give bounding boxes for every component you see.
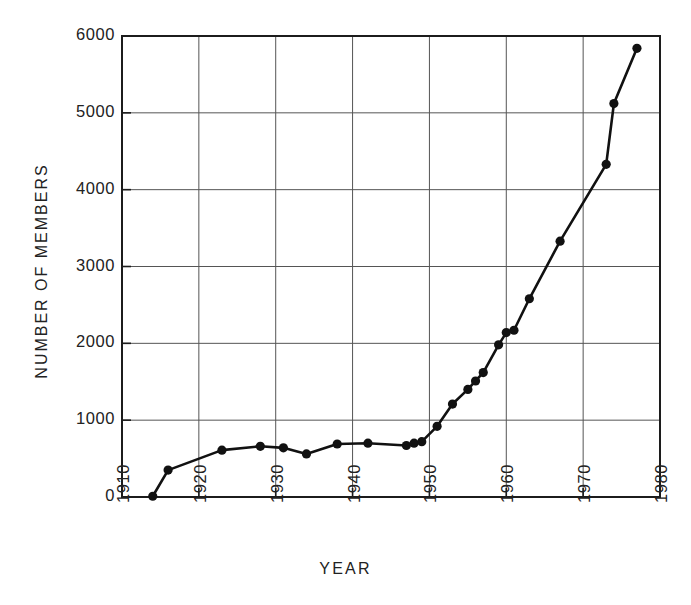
- x-tick-label: 1980: [651, 443, 671, 503]
- x-tick-label: 1910: [113, 443, 133, 503]
- x-tick-label: 1930: [267, 443, 287, 503]
- x-axis-title: YEAR: [0, 560, 691, 578]
- x-tick-label: 1950: [420, 443, 440, 503]
- x-tick-label: 1960: [497, 443, 517, 503]
- chart-figure: NUMBER OF MEMBERS 0100020003000400050006…: [0, 0, 691, 605]
- x-tick-label: 1920: [190, 443, 210, 503]
- x-axis-tick-labels: 19101920193019401950196019701980: [0, 0, 691, 605]
- x-tick-label: 1940: [344, 443, 364, 503]
- x-tick-label: 1970: [574, 443, 594, 503]
